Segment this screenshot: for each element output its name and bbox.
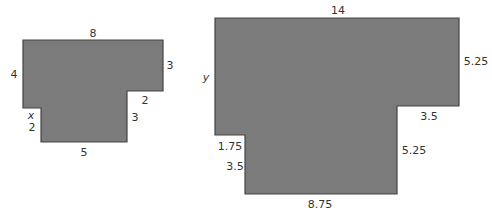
small-notch-vertical-label: 2 (29, 121, 36, 134)
large-right-lower-label: 5.25 (402, 144, 427, 157)
large-figure: 14 y 5.25 3.5 5.25 1.75 3.5 8.75 (202, 4, 489, 211)
large-polygon (215, 18, 459, 194)
small-figure: 8 4 3 2 3 x 2 5 (11, 27, 174, 159)
large-notch-vertical-label: 3.5 (226, 160, 244, 173)
large-step-horizontal-label: 3.5 (420, 110, 438, 123)
small-left-label: 4 (11, 68, 18, 81)
small-bottom-label: 5 (81, 146, 88, 159)
small-right-upper-label: 3 (167, 59, 174, 72)
large-notch-horizontal-label: 1.75 (218, 140, 243, 153)
similar-figures-diagram: 8 4 3 2 3 x 2 5 14 y 5.25 3.5 5.25 1.75 … (0, 0, 492, 221)
large-top-label: 14 (331, 4, 345, 17)
large-right-upper-label: 5.25 (464, 55, 489, 68)
large-left-label: y (202, 71, 210, 84)
large-bottom-label: 8.75 (308, 198, 333, 211)
small-right-lower-label: 3 (132, 111, 139, 124)
small-top-label: 8 (90, 27, 97, 40)
small-step-horizontal-label: 2 (142, 94, 149, 107)
small-polygon (23, 40, 163, 142)
